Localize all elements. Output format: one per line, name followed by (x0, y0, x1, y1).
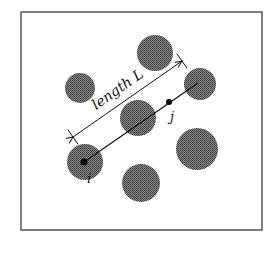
diagram-canvas: length L i j (0, 0, 279, 253)
particle (176, 128, 218, 170)
particle (137, 35, 173, 71)
particle (120, 100, 156, 136)
particle (122, 164, 160, 202)
point-j-marker (166, 99, 172, 105)
point-j-label: j (167, 109, 174, 124)
particle (184, 68, 216, 100)
point-i-marker (81, 159, 88, 166)
point-i-label: i (87, 171, 91, 186)
